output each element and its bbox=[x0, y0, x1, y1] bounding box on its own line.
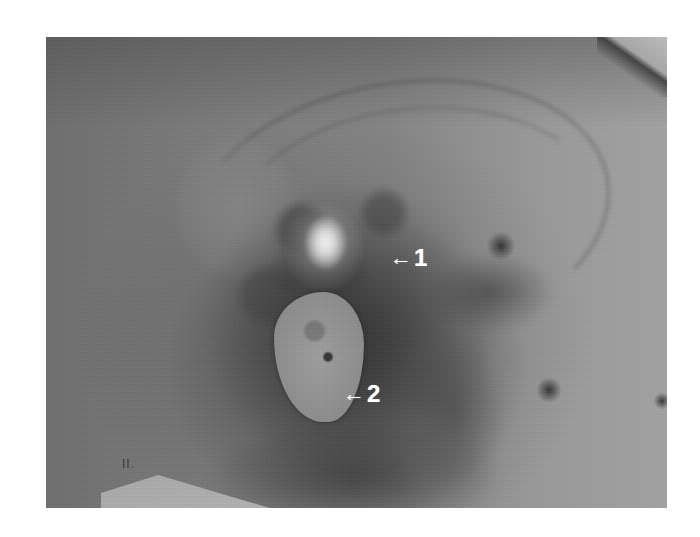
dark-pigmented-area bbox=[426, 252, 556, 332]
skin-base bbox=[46, 37, 667, 508]
dark-spot bbox=[486, 232, 516, 260]
paper-label bbox=[101, 475, 361, 508]
top-right-corner-background bbox=[597, 37, 667, 97]
left-arrow-icon: ← bbox=[343, 383, 365, 405]
annotation-2: ← 2 bbox=[343, 382, 380, 406]
annotation-1: ← 1 bbox=[390, 246, 427, 270]
dark-pigmented-area bbox=[406, 337, 506, 497]
left-arrow-icon: ← bbox=[390, 247, 412, 269]
annotation-label: 1 bbox=[414, 246, 427, 270]
paper-mark-text: II. bbox=[122, 457, 135, 471]
nipple-glare bbox=[284, 202, 364, 292]
light-skin-region bbox=[176, 137, 296, 277]
areola-region bbox=[186, 147, 516, 477]
clinical-photo bbox=[46, 37, 667, 508]
nipple-shadow bbox=[271, 237, 371, 307]
dark-spot bbox=[536, 377, 562, 403]
dark-spot bbox=[654, 392, 667, 410]
lower-shadow bbox=[206, 417, 506, 508]
skin-crease-arc bbox=[166, 47, 632, 383]
skin-crease-arc bbox=[216, 91, 622, 370]
photo-grain bbox=[46, 37, 667, 508]
top-shadow-band bbox=[46, 37, 667, 127]
annotation-label: 2 bbox=[367, 382, 380, 406]
